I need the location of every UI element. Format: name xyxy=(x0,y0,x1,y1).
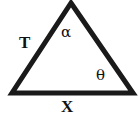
angle-label-alpha: α xyxy=(61,25,71,40)
angle-label-theta: θ xyxy=(96,68,105,83)
side-label-x: X xyxy=(61,98,73,115)
triangle-diagram: T X α θ xyxy=(0,0,140,118)
side-label-t: T xyxy=(19,34,30,51)
